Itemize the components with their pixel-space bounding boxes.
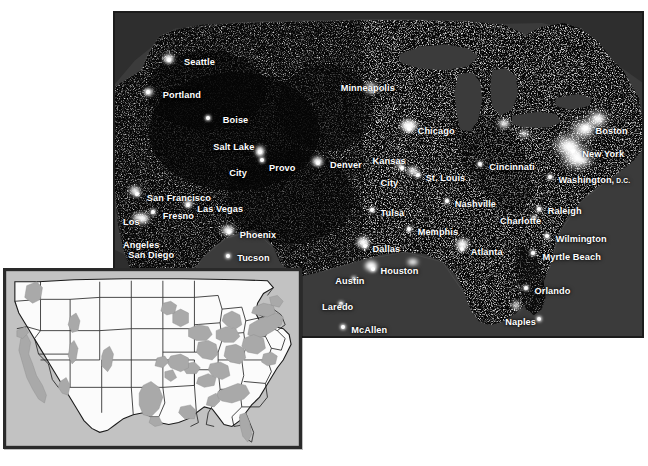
inset-map-canvas [5, 270, 300, 447]
city-light-marker [370, 88, 374, 92]
city-light-marker [167, 58, 171, 62]
city-light-marker [151, 210, 155, 214]
city-light-marker [445, 199, 449, 203]
city-light-marker [316, 161, 320, 165]
city-light-marker [352, 277, 356, 281]
city-light-marker [478, 162, 482, 166]
city-light-marker [363, 244, 367, 248]
city-light-marker [206, 116, 210, 120]
city-light-marker [537, 317, 541, 321]
city-light-marker [371, 267, 375, 271]
us-reference-inset-map [3, 268, 302, 449]
city-light-marker [226, 254, 230, 258]
city-light-marker [532, 216, 536, 220]
city-light-marker [227, 230, 231, 234]
city-light-marker [545, 234, 549, 238]
city-light-marker [460, 247, 464, 251]
city-light-marker [407, 227, 411, 231]
city-light-marker [186, 203, 190, 207]
city-light-marker [146, 90, 150, 94]
city-light-marker [416, 173, 420, 177]
city-light-marker [370, 208, 374, 212]
city-light-marker [524, 286, 528, 290]
city-light-marker [400, 166, 404, 170]
city-light-marker [548, 175, 552, 179]
city-light-marker [571, 149, 575, 153]
city-light-marker [135, 192, 139, 196]
city-light-marker [531, 251, 535, 255]
city-light-marker [341, 325, 345, 329]
city-light-marker [260, 158, 264, 162]
city-light-marker [258, 150, 262, 154]
city-light-marker [407, 127, 411, 131]
city-light-marker [537, 207, 541, 211]
city-light-marker [584, 126, 588, 130]
city-light-marker [339, 302, 343, 306]
